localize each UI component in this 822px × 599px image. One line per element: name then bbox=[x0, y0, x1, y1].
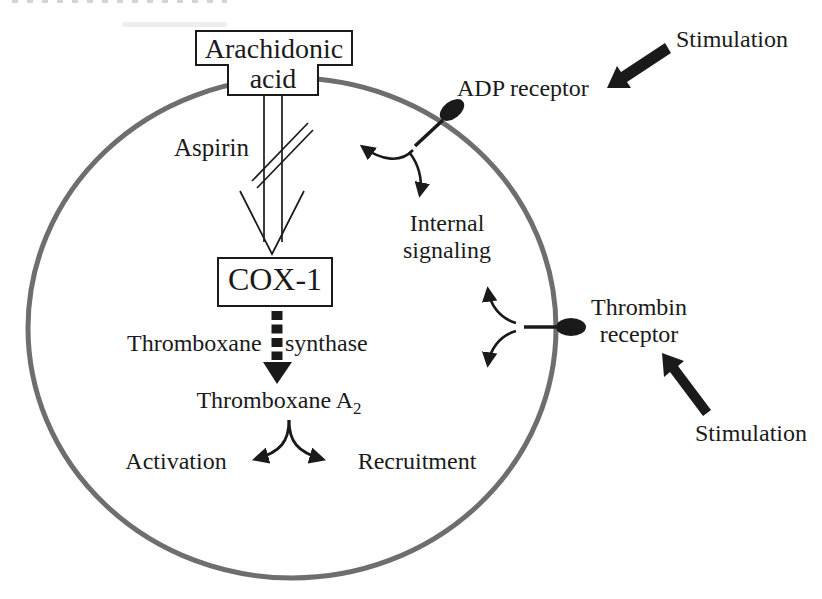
recruitment-label: Recruitment bbox=[352, 448, 482, 475]
fork-arrow-left bbox=[256, 420, 289, 459]
internal-signaling-line2: signaling bbox=[392, 237, 502, 264]
cox1-label: COX-1 bbox=[218, 262, 332, 298]
fork-arrow-right bbox=[289, 420, 322, 459]
print-artifact bbox=[12, 0, 227, 3]
arachidonic-acid-label-line1: Arachidonic bbox=[196, 33, 352, 64]
thromboxane-a2-base: Thromboxane A bbox=[196, 387, 353, 413]
platelet-membrane bbox=[28, 78, 556, 578]
thromboxane-synthase-label-right: synthase bbox=[285, 330, 368, 357]
thrombin-receptor-label-line2: receptor bbox=[584, 321, 694, 348]
internal-signaling-line1: Internal bbox=[392, 210, 502, 237]
activation-label: Activation bbox=[116, 448, 236, 475]
thrombin-signal-arrows bbox=[488, 290, 516, 364]
print-artifact bbox=[122, 22, 227, 27]
adp-receptor-label: ADP receptor bbox=[457, 75, 589, 102]
diagram-canvas bbox=[0, 0, 822, 599]
thrombin-receptor-label-line1: Thrombin bbox=[584, 294, 694, 321]
solid-arrowhead-icon bbox=[263, 362, 292, 384]
internal-signaling-label: Internal signaling bbox=[392, 210, 502, 264]
thromboxane-a2-label: Thromboxane A2 bbox=[169, 387, 389, 418]
platelet-signaling-diagram: Arachidonic acid Aspirin COX-1 Thromboxa… bbox=[0, 0, 822, 599]
thrombin-receptor-label: Thrombin receptor bbox=[584, 294, 694, 348]
stimulation-label-bottom: Stimulation bbox=[695, 420, 807, 447]
thromboxane-synthase-label-left: Thromboxane bbox=[127, 330, 262, 357]
stimulation-label-top: Stimulation bbox=[676, 26, 788, 53]
open-arrowhead-icon bbox=[240, 191, 304, 254]
adp-signal-arrows bbox=[363, 147, 421, 194]
stimulation-arrow-top-icon bbox=[607, 43, 671, 88]
thromboxane-a2-subscript: 2 bbox=[353, 399, 362, 418]
arachidonic-acid-label-line2: acid bbox=[228, 63, 318, 94]
fork-arrow bbox=[256, 420, 322, 459]
stimulation-arrow-bottom-icon bbox=[662, 353, 711, 416]
substrate-arrow bbox=[240, 96, 304, 254]
aspirin-label: Aspirin bbox=[174, 134, 249, 162]
